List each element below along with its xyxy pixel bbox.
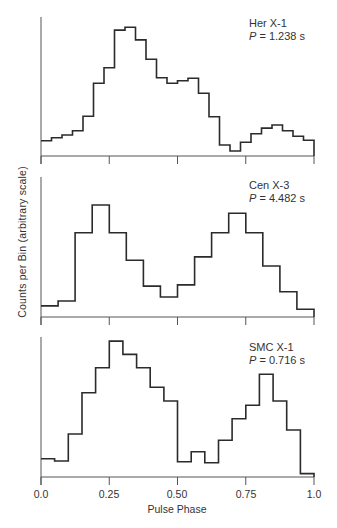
pulse-profile-histogram <box>41 27 314 156</box>
x-tick-label: 0.50 <box>167 488 187 500</box>
period-symbol: P <box>249 192 256 204</box>
panel-label-cen-x3: Cen X-3 P = 4.482 s <box>249 179 305 204</box>
source-name: Cen X-3 <box>249 179 305 192</box>
x-tick-label: 0.75 <box>236 488 256 500</box>
pulse-profiles-figure: Her X-1 P = 1.238 s Cen X-3 P = 4.482 s … <box>0 0 337 528</box>
panel-label-smc-x1: SMC X-1 P = 0.716 s <box>249 341 305 366</box>
source-name: Her X-1 <box>249 17 305 30</box>
period-value: = 4.482 s <box>259 192 305 204</box>
panel-label-her-x1: Her X-1 P = 1.238 s <box>249 17 305 42</box>
x-tick-label: 1.0 <box>307 488 322 500</box>
y-axis-label: Counts per Bin (arbitrary scale) <box>16 166 28 318</box>
x-tick-label: 0.25 <box>99 488 119 500</box>
period-value: = 0.716 s <box>259 354 305 366</box>
period-label: P = 4.482 s <box>249 192 305 205</box>
plot-area <box>0 0 337 528</box>
period-label: P = 1.238 s <box>249 30 305 43</box>
x-tick-label: 0.0 <box>34 488 49 500</box>
x-axis-label: Pulse Phase <box>148 503 207 515</box>
period-value: = 1.238 s <box>259 30 305 42</box>
period-symbol: P <box>249 30 256 42</box>
source-name: SMC X-1 <box>249 341 305 354</box>
period-label: P = 0.716 s <box>249 354 305 367</box>
period-symbol: P <box>249 354 256 366</box>
pulse-profile-histogram <box>41 205 314 317</box>
